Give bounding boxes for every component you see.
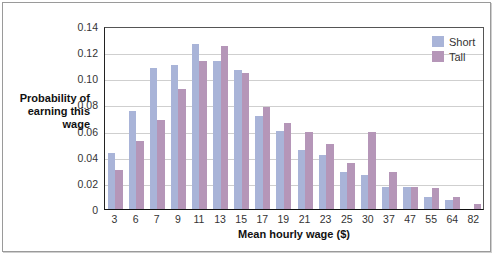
y-tick-label: 0.08 (58, 99, 98, 111)
legend: Short Tall (432, 34, 475, 64)
x-tick-label: 25 (336, 213, 357, 225)
legend-item-short: Short (432, 34, 475, 49)
bar-tall (432, 188, 440, 209)
x-tick-label: 17 (252, 213, 273, 225)
x-tick-label: 15 (231, 213, 252, 225)
legend-label-short: Short (449, 36, 475, 48)
bar-tall (347, 163, 355, 209)
bar-short (319, 155, 327, 209)
legend-item-tall: Tall (432, 49, 475, 64)
bar-short (129, 111, 137, 209)
x-tick-label: 19 (273, 213, 294, 225)
x-tick-label: 30 (357, 213, 378, 225)
y-tick-label: 0.14 (58, 21, 98, 33)
bar-short (192, 44, 200, 209)
y-tick-label: 0 (58, 204, 98, 216)
bar-short (382, 187, 390, 209)
x-tick-label: 55 (421, 213, 442, 225)
x-tick-label: 64 (442, 213, 463, 225)
gridline (105, 80, 483, 81)
x-tick-label: 37 (378, 213, 399, 225)
legend-swatch-tall (432, 51, 444, 62)
bar-tall (453, 197, 461, 209)
bar-tall (411, 187, 419, 209)
x-tick-label: 47 (400, 213, 421, 225)
bar-tall (221, 46, 229, 209)
x-tick-label: 13 (210, 213, 231, 225)
y-tick-label: 0.12 (58, 47, 98, 59)
bar-tall (136, 141, 144, 209)
bar-short (298, 150, 306, 209)
bar-tall (284, 123, 292, 209)
bar-tall (474, 204, 482, 209)
bar-short (403, 187, 411, 209)
bar-tall (178, 89, 186, 209)
gridline (105, 106, 483, 107)
bar-tall (263, 107, 271, 209)
x-tick-label: 3 (104, 213, 125, 225)
bar-tall (115, 170, 123, 209)
bar-short (255, 116, 263, 209)
bar-tall (157, 120, 165, 209)
bar-short (108, 153, 116, 209)
bar-tall (305, 132, 313, 209)
bar-short (213, 61, 221, 209)
x-tick-label: 9 (167, 213, 188, 225)
bar-short (424, 197, 432, 209)
x-axis-label: Mean hourly wage ($) (104, 228, 484, 240)
bar-short (150, 68, 158, 209)
bar-tall (242, 73, 250, 209)
y-tick-label: 0.06 (58, 126, 98, 138)
legend-swatch-short (432, 36, 444, 47)
bar-short (276, 131, 284, 209)
bar-tall (199, 61, 207, 209)
x-tick-label: 82 (463, 213, 484, 225)
x-tick-label: 11 (188, 213, 209, 225)
bar-tall (389, 172, 397, 209)
bar-short (361, 175, 369, 209)
bar-short (171, 65, 179, 209)
bar-tall (368, 132, 376, 209)
x-tick-label: 7 (146, 213, 167, 225)
bar-short (445, 200, 453, 209)
y-tick-label: 0.02 (58, 178, 98, 190)
y-tick-label: 0.10 (58, 73, 98, 85)
legend-label-tall: Tall (449, 51, 466, 63)
x-tick-label: 23 (315, 213, 336, 225)
x-tick-label: 6 (125, 213, 146, 225)
x-tick-label: 21 (294, 213, 315, 225)
bar-tall (326, 144, 334, 209)
y-tick-label: 0.04 (58, 152, 98, 164)
plot-area (104, 27, 484, 210)
bar-short (340, 172, 348, 209)
bar-short (234, 70, 242, 209)
gridline (105, 54, 483, 55)
